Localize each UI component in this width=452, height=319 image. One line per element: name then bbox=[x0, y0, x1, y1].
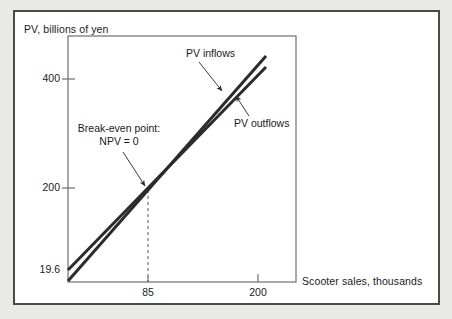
pv-outflows-leader-arrow bbox=[236, 96, 249, 116]
pv-outflows-line bbox=[68, 67, 266, 270]
figure-root: PV, billions of yen Scooter sales, thous… bbox=[0, 0, 452, 319]
chart-vector-layer bbox=[0, 0, 452, 319]
pv-inflows-leader-arrow bbox=[199, 62, 222, 91]
break-even-leader-arrow bbox=[123, 152, 145, 186]
